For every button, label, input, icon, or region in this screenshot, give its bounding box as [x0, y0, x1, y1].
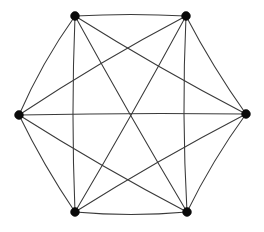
graph-figure: [0, 0, 264, 232]
graph-vertex-right: [242, 110, 251, 119]
canvas-background: [0, 0, 264, 232]
graph-vertex-left: [15, 111, 24, 120]
graph-vertex-bottom-left: [71, 208, 80, 217]
graph-vertex-bottom-right: [183, 208, 192, 217]
graph-canvas: [0, 0, 264, 232]
graph-vertex-top-left: [71, 12, 80, 21]
graph-vertex-top-right: [182, 12, 191, 21]
